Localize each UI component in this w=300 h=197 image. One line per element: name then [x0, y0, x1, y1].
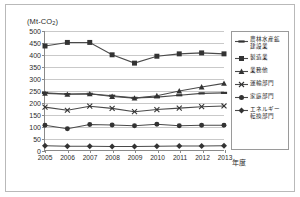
y-axis-unit-text: (Mt-CO — [27, 17, 52, 26]
y-axis-tick-label: 150 — [29, 112, 41, 119]
legend-item: 農林水産鉱 建設業 — [234, 36, 286, 50]
y-axis-tick-label: 200 — [29, 100, 41, 107]
data-point-marker — [154, 54, 159, 59]
data-point-marker — [43, 123, 48, 128]
y-axis-tick-label: 300 — [29, 76, 41, 83]
y-axis-tick-label: 250 — [29, 88, 41, 95]
data-point-marker — [64, 143, 70, 149]
data-point-marker — [199, 123, 204, 128]
legend-label: 家庭部門 — [250, 93, 274, 100]
data-point-marker — [222, 123, 227, 128]
data-point-marker — [87, 122, 92, 127]
data-point-marker — [132, 61, 137, 66]
legend-item: 製造業 — [234, 54, 286, 64]
x-axis-tick-label: 2011 — [173, 154, 187, 161]
y-axis-unit-subscript: 2 — [52, 20, 55, 26]
x-axis-tick-mark — [113, 150, 114, 153]
data-point-marker — [239, 95, 244, 100]
data-point-marker — [87, 143, 93, 149]
x-axis-tick-mark — [90, 150, 91, 153]
x-axis-tick-mark — [203, 150, 204, 153]
data-point-marker — [199, 92, 205, 94]
y-axis-tick-label: 450 — [29, 40, 41, 47]
x-axis-tick-label: 2009 — [128, 154, 143, 161]
legend-item: 業務他 — [234, 67, 286, 77]
y-axis-unit-label: (Mt-CO2) — [27, 17, 58, 26]
x-axis-tick-label: 2008 — [105, 154, 120, 161]
data-point-marker — [65, 40, 70, 45]
y-axis-tick-label: 500 — [29, 28, 41, 35]
data-point-marker — [43, 44, 48, 49]
data-point-marker — [222, 51, 227, 56]
data-point-marker — [221, 92, 227, 94]
data-point-marker — [238, 40, 244, 42]
x-axis-tick-mark — [180, 150, 181, 153]
data-point-marker — [154, 122, 159, 127]
chart-figure: (Mt-CO2) 0501001502002503003504004505002… — [0, 0, 300, 197]
legend-marker-diamond-icon — [235, 106, 248, 115]
data-point-marker — [176, 94, 182, 96]
data-point-marker — [154, 143, 160, 149]
x-axis-tick-mark — [158, 150, 159, 153]
legend-label: エネルギー 転換部門 — [250, 106, 280, 120]
y-axis-tick-label: 350 — [29, 64, 41, 71]
y-axis-tick-label: 400 — [29, 52, 41, 59]
data-point-marker — [109, 143, 115, 149]
series-layer — [45, 31, 224, 150]
data-point-marker — [177, 123, 182, 128]
data-point-marker — [176, 143, 182, 149]
series-group — [42, 143, 227, 150]
data-point-marker — [177, 51, 182, 56]
chart-legend: 農林水産鉱 建設業製造業業務他運輸部門家庭部門エネルギー 転換部門 — [231, 31, 289, 150]
x-axis-tick-label: 2005 — [38, 154, 53, 161]
data-point-marker — [132, 123, 137, 128]
series-group — [43, 122, 227, 131]
legend-item: 運輸部門 — [234, 80, 286, 90]
data-point-marker — [87, 40, 92, 45]
legend-marker-triangle-icon — [235, 67, 248, 76]
x-axis-tick-label: 2010 — [150, 154, 165, 161]
y-axis-unit-close: ) — [55, 17, 58, 26]
x-axis-tick-mark — [225, 150, 226, 153]
series-line — [45, 106, 224, 112]
y-axis-tick-label: 50 — [33, 136, 41, 143]
legend-marker-square-icon — [235, 54, 248, 63]
x-axis-tick-label: 2007 — [83, 154, 98, 161]
series-line — [45, 42, 224, 63]
legend-label: 業務他 — [250, 67, 268, 74]
legend-label: 製造業 — [250, 54, 268, 61]
data-point-marker — [199, 143, 205, 149]
plot-area: 0501001502002503003504004505002005200620… — [44, 31, 224, 151]
x-axis-tick-label: 2006 — [60, 154, 75, 161]
legend-item: エネルギー 転換部門 — [234, 106, 286, 120]
y-axis-tick-label: 100 — [29, 124, 41, 131]
x-axis-tick-mark — [68, 150, 69, 153]
data-point-marker — [199, 50, 204, 55]
series-group — [42, 80, 227, 100]
data-point-marker — [110, 52, 115, 57]
legend-label: 運輸部門 — [250, 80, 274, 87]
x-axis-tick-label: 2012 — [195, 154, 210, 161]
x-axis-tick-mark — [135, 150, 136, 153]
x-axis-tick-mark — [45, 150, 46, 153]
legend-label: 農林水産鉱 建設業 — [250, 36, 280, 50]
data-point-marker — [110, 123, 115, 128]
series-group — [43, 40, 227, 66]
legend-marker-dash-icon — [235, 37, 248, 46]
legend-marker-circle-icon — [235, 93, 248, 102]
x-axis-title: 年度 — [232, 157, 246, 167]
data-point-marker — [132, 143, 138, 149]
data-point-marker — [239, 108, 245, 114]
series-group — [43, 103, 227, 114]
legend-marker-cross-icon — [235, 80, 248, 89]
data-point-marker — [239, 56, 244, 61]
legend-item: 家庭部門 — [234, 93, 286, 103]
data-point-marker — [65, 126, 70, 131]
x-axis-tick-label: 2013 — [218, 154, 233, 161]
